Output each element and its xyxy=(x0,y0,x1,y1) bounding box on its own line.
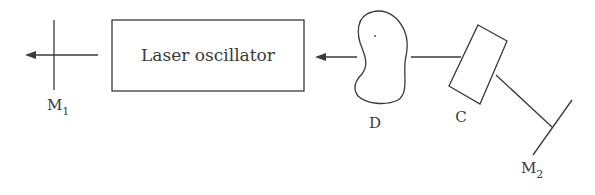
laser-oscillator-label: Laser oscillator xyxy=(141,45,276,65)
arrowhead-icon xyxy=(25,51,36,59)
mirror-m2 xyxy=(533,100,572,155)
beam-arrow-d-to-oscillator xyxy=(315,53,357,61)
sample-d-shape xyxy=(355,11,407,103)
sample-d-dot xyxy=(374,35,376,37)
output-beam-arrow xyxy=(25,51,98,59)
sample-d-label: D xyxy=(369,114,381,132)
crystal-c xyxy=(449,25,507,104)
beam-c-to-m2 xyxy=(496,75,552,127)
mirror-m2-label: M2 xyxy=(521,159,543,181)
mirror-m1-label: M1 xyxy=(47,96,69,118)
crystal-c-label: C xyxy=(455,108,466,126)
arrowhead-icon xyxy=(315,53,326,61)
